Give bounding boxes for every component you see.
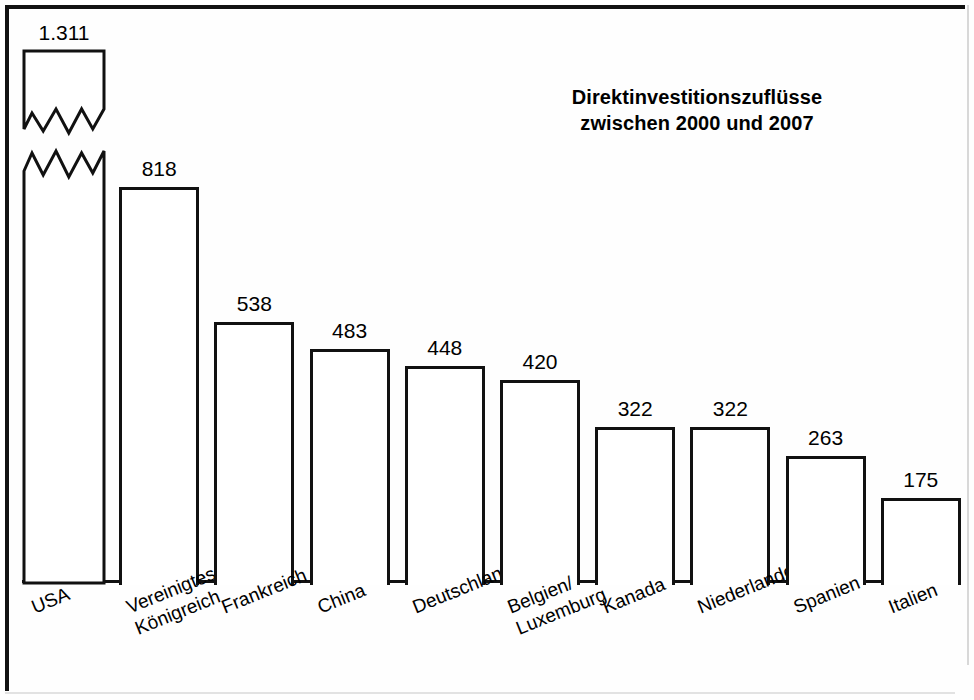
bar-value-label: 175 [869,468,973,492]
bar-value-label: 322 [678,397,782,421]
bar-value-label: 263 [774,426,878,450]
bar [881,498,961,585]
bar-usa-lower-segment [24,151,104,583]
bar [214,322,294,585]
plot-area: 1.311USA818Vereinigtes Königreich538Fran… [0,0,974,700]
bar-usa-broken [20,47,108,587]
chart-container: Direktinvestitionszuflüsse zwischen 2000… [0,0,974,700]
bar [595,427,675,585]
bar-value-label: 420 [488,350,592,374]
bar-value-label: 322 [583,397,687,421]
bar [310,349,390,585]
bar [119,187,199,585]
bar [405,366,485,585]
category-label: USA [28,582,73,618]
bar [690,427,770,585]
bar-value-label: 483 [298,319,402,343]
bar [786,456,866,585]
bar-usa-upper-segment [24,51,104,133]
bar-value-label: 538 [202,292,306,316]
bar-value-label: 1.311 [12,21,116,45]
bar-value-label: 448 [393,336,497,360]
bar [500,380,580,585]
bar-value-label: 818 [107,157,211,181]
